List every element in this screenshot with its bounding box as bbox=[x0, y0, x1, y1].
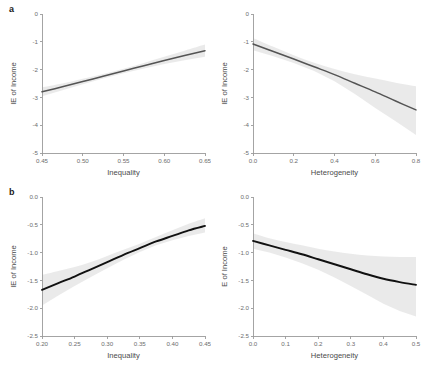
fit-line bbox=[42, 51, 205, 92]
y-axis-title: E of Income bbox=[220, 246, 229, 287]
x-axis-title: Inequality bbox=[107, 351, 140, 360]
y-tick-label: -1.5 bbox=[238, 277, 249, 284]
x-tick-label: 0.45 bbox=[199, 340, 211, 347]
y-tick-label: -2.0 bbox=[238, 304, 249, 311]
y-tick-label: -0.5 bbox=[238, 221, 249, 228]
x-tick-label: 0.2 bbox=[314, 340, 323, 347]
x-tick-label: 0.50 bbox=[77, 157, 90, 164]
x-tick-label: 0.40 bbox=[166, 340, 179, 347]
y-tick-label: -2.0 bbox=[27, 304, 38, 311]
panel-row-b: b 0.0-0.5-1.0-1.5-2.0-2.50.200.250.300.3… bbox=[0, 183, 422, 366]
panel-b-left: 0.0-0.5-1.0-1.5-2.0-2.50.200.250.300.350… bbox=[0, 183, 211, 366]
plot-a-right: 0-1-2-3-4-50.00.20.40.60.8HeterogeneityI… bbox=[211, 0, 422, 183]
y-axis-title: IE of Income bbox=[220, 62, 229, 105]
panel-b-right: 0.0-0.5-1.0-1.5-2.0-2.50.00.10.20.30.40.… bbox=[211, 183, 422, 366]
panel-a-left: 0-1-2-3-4-50.450.500.550.600.65Inequalit… bbox=[0, 0, 211, 183]
y-tick-label: -1.0 bbox=[27, 249, 38, 256]
y-tick-label: -1.5 bbox=[27, 277, 38, 284]
y-tick-label: -2.5 bbox=[238, 332, 249, 339]
y-tick-label: 0.0 bbox=[240, 193, 249, 200]
x-tick-label: 0.55 bbox=[117, 157, 130, 164]
x-tick-label: 0.4 bbox=[330, 157, 339, 164]
x-tick-label: 0.3 bbox=[346, 340, 355, 347]
panel-row-a: a 0-1-2-3-4-50.450.500.550.600.65Inequal… bbox=[0, 0, 422, 183]
x-tick-label: 0.0 bbox=[249, 340, 258, 347]
y-axis-title: IE of Income bbox=[9, 245, 18, 288]
x-axis-title: Heterogeneity bbox=[311, 351, 358, 360]
x-tick-label: 0.35 bbox=[134, 340, 147, 347]
y-tick-label: -5 bbox=[243, 149, 249, 156]
panel-a-right: 0-1-2-3-4-50.00.20.40.60.8HeterogeneityI… bbox=[211, 0, 422, 183]
x-tick-label: 0.5 bbox=[412, 340, 421, 347]
y-tick-label: -0.5 bbox=[27, 221, 38, 228]
x-tick-label: 0.2 bbox=[289, 157, 298, 164]
y-tick-label: 0 bbox=[35, 10, 39, 17]
y-tick-label: -5 bbox=[32, 149, 38, 156]
x-axis-title: Inequality bbox=[107, 168, 140, 177]
plot-b-left: 0.0-0.5-1.0-1.5-2.0-2.50.200.250.300.350… bbox=[0, 183, 211, 366]
plot-b-right: 0.0-0.5-1.0-1.5-2.0-2.50.00.10.20.30.40.… bbox=[211, 183, 422, 366]
x-tick-label: 0.6 bbox=[371, 157, 380, 164]
y-axis-title: IE of Income bbox=[9, 62, 18, 105]
y-tick-label: 0 bbox=[246, 10, 250, 17]
x-tick-label: 0.65 bbox=[199, 157, 211, 164]
x-tick-label: 0.4 bbox=[379, 340, 388, 347]
x-tick-label: 0.20 bbox=[36, 340, 49, 347]
y-tick-label: 0.0 bbox=[29, 193, 38, 200]
y-tick-label: -2 bbox=[243, 66, 249, 73]
y-tick-label: -1 bbox=[243, 38, 249, 45]
y-tick-label: -4 bbox=[243, 121, 249, 128]
x-tick-label: 0.1 bbox=[281, 340, 290, 347]
x-tick-label: 0.0 bbox=[249, 157, 258, 164]
x-axis-title: Heterogeneity bbox=[311, 168, 358, 177]
y-tick-label: -1 bbox=[32, 38, 38, 45]
y-tick-label: -1.0 bbox=[238, 249, 249, 256]
y-tick-label: -4 bbox=[32, 121, 38, 128]
x-tick-label: 0.45 bbox=[36, 157, 49, 164]
plot-a-left: 0-1-2-3-4-50.450.500.550.600.65Inequalit… bbox=[0, 0, 211, 183]
y-tick-label: -3 bbox=[32, 94, 38, 101]
y-tick-label: -3 bbox=[243, 94, 249, 101]
y-tick-label: -2.5 bbox=[27, 332, 38, 339]
x-tick-label: 0.8 bbox=[412, 157, 421, 164]
y-tick-label: -2 bbox=[32, 66, 38, 73]
x-tick-label: 0.30 bbox=[101, 340, 114, 347]
x-tick-label: 0.60 bbox=[158, 157, 171, 164]
figure-container: a 0-1-2-3-4-50.450.500.550.600.65Inequal… bbox=[0, 0, 422, 367]
x-tick-label: 0.25 bbox=[69, 340, 82, 347]
